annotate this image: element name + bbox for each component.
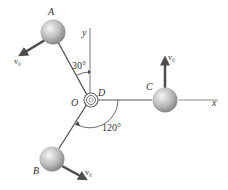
sphere-B bbox=[40, 147, 65, 172]
point-label-D: D bbox=[97, 87, 106, 98]
x-axis-label: x bbox=[211, 97, 217, 108]
velocity-arrow-A bbox=[22, 40, 45, 54]
velocity-label-B: v₀ bbox=[85, 168, 92, 177]
y-axis-label: y bbox=[81, 27, 87, 38]
mechanics-diagram: y x 30° 120° D O v₀ A v₀ C v₀ B bbox=[0, 0, 228, 190]
point-label-B: B bbox=[33, 165, 39, 176]
velocity-label-C: v₀ bbox=[168, 53, 175, 62]
point-label-O: O bbox=[71, 97, 78, 108]
angle-label-120: 120° bbox=[102, 122, 121, 133]
sphere-A bbox=[41, 20, 66, 45]
angle-label-30: 30° bbox=[72, 60, 86, 71]
pivot-joint bbox=[84, 93, 98, 107]
point-label-C: C bbox=[146, 81, 153, 92]
point-label-A: A bbox=[47, 6, 55, 17]
velocity-label-A: v₀ bbox=[14, 57, 21, 66]
sphere-C bbox=[153, 88, 178, 113]
velocity-arrow-B bbox=[62, 166, 84, 178]
